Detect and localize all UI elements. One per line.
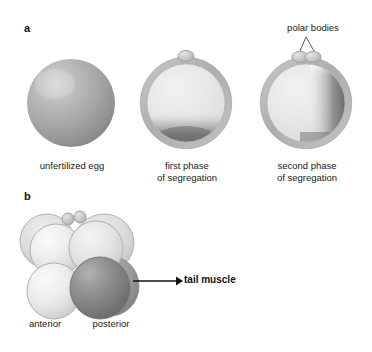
polar-body-stage2	[178, 50, 194, 61]
unfertilized-egg-graphic	[27, 59, 115, 147]
polar-bodies-embryo	[62, 211, 86, 225]
tail-muscle-label: tail muscle	[184, 274, 236, 285]
caption-second-phase: second phase of segregation	[246, 160, 368, 184]
polar-bodies-leader-lines	[300, 37, 314, 51]
anterior-label: anterior	[14, 318, 76, 329]
second-phase-egg-graphic	[260, 37, 352, 149]
caption-first-phase: first phase of segregation	[126, 160, 248, 184]
panel-b-label: b	[24, 190, 31, 202]
cell-posterior-dark	[70, 257, 130, 319]
figure-canvas: a polar bodies	[0, 0, 372, 352]
tail-muscle-arrow	[133, 277, 183, 286]
first-phase-egg-graphic	[140, 50, 232, 178]
embryo-graphic	[20, 211, 183, 319]
posterior-label: posterior	[76, 318, 146, 329]
caption-unfertilized-egg: unfertilized egg	[11, 160, 133, 172]
